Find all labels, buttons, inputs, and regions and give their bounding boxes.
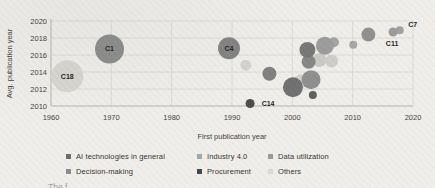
legend-item-decision-making: Decision-making xyxy=(66,167,133,176)
legend-item-label: Others xyxy=(278,167,301,176)
y-tick-label: 2012 xyxy=(30,85,47,94)
legend-item-label: AI technologies in general xyxy=(76,152,165,161)
bubble-label-C11: C11 xyxy=(386,40,399,47)
legend-item-others: Others xyxy=(268,167,301,176)
x-tick-label: 1960 xyxy=(43,113,60,122)
legend-marker-icon xyxy=(268,169,273,174)
x-tick-label: 1970 xyxy=(103,113,120,122)
legend-item-procurement: Procurement xyxy=(197,167,251,176)
y-tick-label: 2014 xyxy=(30,68,47,77)
caption-fragment: The f xyxy=(48,182,67,188)
bubble-C11 xyxy=(389,28,398,37)
y-tick-label: 2010 xyxy=(30,102,47,111)
y-tick-label: 2018 xyxy=(30,34,47,43)
bubble xyxy=(283,77,303,97)
bubble xyxy=(240,60,251,71)
bubble-label-C4: C4 xyxy=(225,45,234,52)
x-tick-label: 1990 xyxy=(224,113,241,122)
x-tick-label: 2020 xyxy=(405,113,422,122)
x-tick-label: 1980 xyxy=(163,113,180,122)
legend-marker-icon xyxy=(66,154,71,159)
y-tick-label: 2020 xyxy=(30,17,47,26)
bubble xyxy=(299,42,315,58)
bubble xyxy=(325,54,338,67)
bubble-label-C1: C1 xyxy=(105,45,114,52)
chart-canvas: 2010201220142016201820201960197019801990… xyxy=(0,0,435,150)
bubble xyxy=(302,70,321,89)
scanned-figure: 2010201220142016201820201960197019801990… xyxy=(0,0,435,188)
legend-item-ai-technologies-in-general: AI technologies in general xyxy=(66,152,165,161)
bubble-label-C7: C7 xyxy=(408,21,417,28)
bubble xyxy=(309,91,317,99)
legend-marker-icon xyxy=(66,169,71,174)
legend-item-data-utilization: Data utilization xyxy=(268,152,329,161)
legend-item-industry-4-0: Industry 4.0 xyxy=(197,152,247,161)
legend-marker-icon xyxy=(197,169,202,174)
legend-marker-icon xyxy=(268,154,273,159)
legend-item-label: Data utilization xyxy=(278,152,329,161)
bubble-C14 xyxy=(246,99,255,108)
legend-item-label: Decision-making xyxy=(76,167,133,176)
x-tick-label: 2010 xyxy=(344,113,361,122)
bubble-label-C14: C14 xyxy=(262,100,275,107)
bubble-chart: 2010201220142016201820201960197019801990… xyxy=(0,0,435,154)
chart-legend: AI technologies in generalIndustry 4.0Da… xyxy=(0,148,435,182)
legend-item-label: Procurement xyxy=(207,167,251,176)
legend-marker-icon xyxy=(197,154,202,159)
y-tick-label: 2016 xyxy=(30,51,47,60)
bubble xyxy=(262,67,276,81)
bubble xyxy=(361,28,375,42)
bubble-label-C18: C18 xyxy=(61,73,74,80)
y-axis-title: Avg. publication year xyxy=(5,28,14,98)
legend-item-label: Industry 4.0 xyxy=(207,152,247,161)
x-axis-title: First publication year xyxy=(197,132,267,141)
x-tick-label: 2000 xyxy=(284,113,301,122)
bubble xyxy=(316,37,334,55)
bubble xyxy=(349,41,357,49)
